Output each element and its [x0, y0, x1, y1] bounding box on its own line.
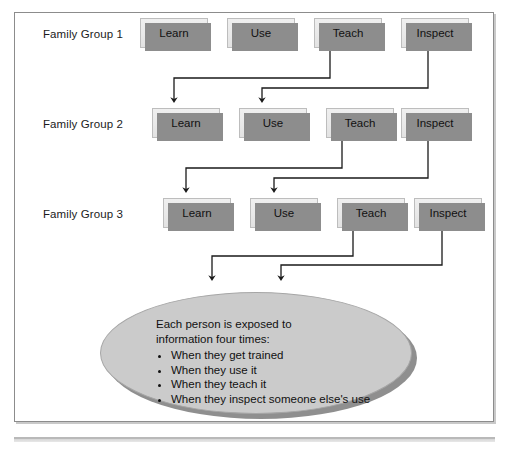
box-group2-learn[interactable]: Learn	[152, 108, 220, 138]
bottom-divider-rule	[14, 437, 495, 442]
box-label: Learn	[171, 117, 200, 129]
box-group3-learn[interactable]: Learn	[163, 198, 231, 228]
box-label: Teach	[345, 117, 376, 129]
box-label: Learn	[182, 207, 211, 219]
box-group2-use[interactable]: Use	[239, 108, 307, 138]
box-label: Learn	[159, 27, 188, 39]
callout-lead-line-1: Each person is exposed to	[156, 317, 416, 332]
box-group3-use[interactable]: Use	[250, 198, 318, 228]
list-item: When they inspect someone else's use	[171, 392, 416, 407]
callout-lead-line-2: information four times:	[156, 332, 416, 347]
list-item: When they use it	[171, 363, 416, 378]
box-group1-teach[interactable]: Teach	[314, 18, 382, 48]
callout-bullet-list: When they get trained When they use it W…	[156, 348, 416, 406]
box-label: Teach	[333, 27, 364, 39]
box-label: Inspect	[429, 207, 466, 219]
box-group3-teach[interactable]: Teach	[337, 198, 405, 228]
diagram-canvas: Family Group 1 Family Group 2 Family Gro…	[0, 0, 509, 450]
box-group2-inspect[interactable]: Inspect	[401, 108, 469, 138]
box-label: Inspect	[416, 117, 453, 129]
row-label-family-group-1: Family Group 1	[43, 28, 123, 40]
box-label: Inspect	[416, 27, 453, 39]
box-group3-inspect[interactable]: Inspect	[414, 198, 482, 228]
row-label-family-group-3: Family Group 3	[43, 208, 123, 220]
box-label: Use	[251, 27, 271, 39]
list-item: When they teach it	[171, 377, 416, 392]
row-label-family-group-2: Family Group 2	[43, 118, 123, 130]
box-label: Teach	[356, 207, 387, 219]
box-group2-teach[interactable]: Teach	[326, 108, 394, 138]
box-label: Use	[274, 207, 294, 219]
box-group1-inspect[interactable]: Inspect	[401, 18, 469, 48]
box-label: Use	[263, 117, 283, 129]
callout-content: Each person is exposed to information fo…	[156, 317, 416, 406]
list-item: When they get trained	[171, 348, 416, 363]
box-group1-use[interactable]: Use	[227, 18, 295, 48]
box-group1-learn[interactable]: Learn	[140, 18, 208, 48]
